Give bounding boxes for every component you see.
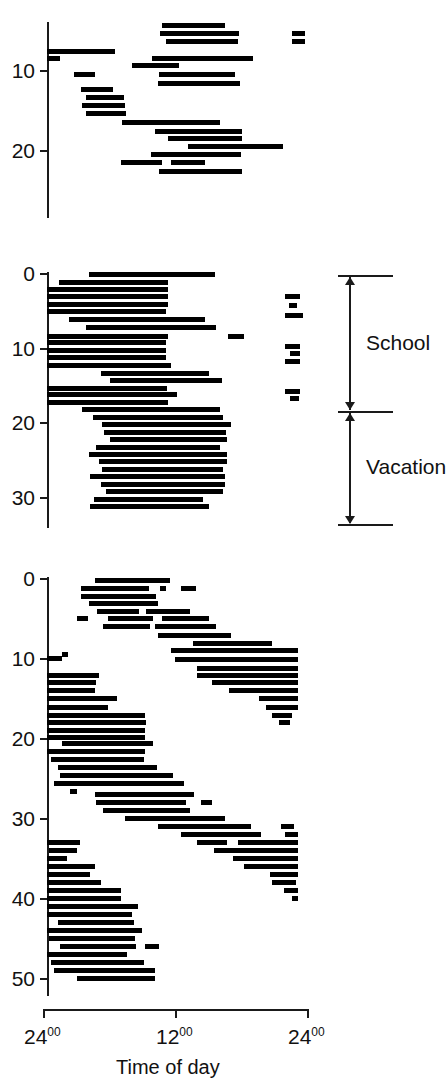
x-axis-title: Time of day bbox=[116, 1057, 220, 1077]
bracket-label-school: School bbox=[366, 332, 430, 353]
bracket-label-vacation: Vacation bbox=[366, 456, 446, 477]
bracket-school-line bbox=[349, 277, 351, 410]
x-label-end: 2400 bbox=[288, 1026, 325, 1047]
bracket-vacation-arrow-up bbox=[345, 413, 355, 421]
x-label-start-sup: 00 bbox=[47, 1025, 60, 1039]
bracket-vacation-line bbox=[349, 413, 351, 523]
bracket-school-arrow-down bbox=[345, 402, 355, 410]
x-tick-end bbox=[307, 1009, 309, 1018]
actogram-figure: 1020 0102030 01020304050 School Vacation… bbox=[0, 0, 447, 1079]
bracket-bottom-rule bbox=[338, 524, 393, 526]
bracket-vacation-arrow-down bbox=[345, 516, 355, 524]
school-vacation-bracket: School Vacation bbox=[0, 0, 447, 1079]
x-label-middle-sup: 00 bbox=[179, 1025, 192, 1039]
x-tick-start bbox=[43, 1009, 45, 1018]
x-label-end-text: 24 bbox=[288, 1025, 311, 1048]
x-label-middle: 1200 bbox=[156, 1026, 193, 1047]
x-label-start: 2400 bbox=[24, 1026, 61, 1047]
bracket-school-arrow-up bbox=[345, 277, 355, 285]
x-axis: 2400 1200 2400 Time of day bbox=[0, 1000, 447, 1079]
x-label-middle-text: 12 bbox=[156, 1025, 179, 1048]
x-tick-middle bbox=[175, 1009, 177, 1018]
x-label-end-sup: 00 bbox=[311, 1025, 324, 1039]
x-label-start-text: 24 bbox=[24, 1025, 47, 1048]
